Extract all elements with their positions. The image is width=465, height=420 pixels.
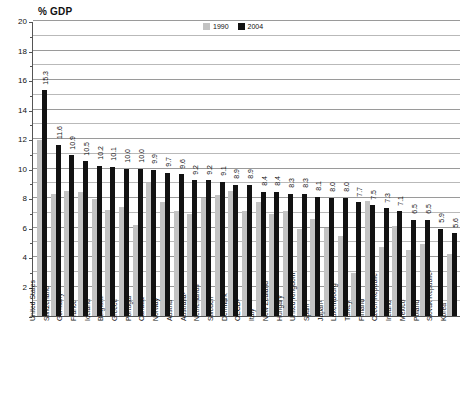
x-axis-category: Japan¹ (322, 319, 336, 417)
bar-group: 9.6 (172, 22, 186, 316)
bar-group: 8.4 (254, 22, 268, 316)
x-axis-category-label: Iceland (85, 299, 92, 321)
bar-group: 8.0 (322, 22, 336, 316)
x-axis-category: France (75, 319, 89, 417)
x-axis-category-label: Canada (140, 297, 147, 321)
bar-group: 8.9 (226, 22, 240, 316)
bar-group: 6.5 (404, 22, 418, 316)
x-axis-category: Iceland (89, 319, 103, 417)
x-axis-category: Finland (363, 319, 377, 417)
y-axis-minor-tick (30, 155, 32, 156)
y-axis-minor-tick (30, 243, 32, 244)
bar-2004 (315, 197, 320, 316)
x-axis-category: OECD² (240, 319, 254, 417)
bar-group: 10.0 (131, 22, 145, 316)
bar-group: 8.1 (308, 22, 322, 316)
x-axis-category: Canada (144, 319, 158, 417)
x-axis-category: Italy (253, 319, 267, 417)
bar-2004 (110, 167, 115, 316)
x-axis-category-label: OECD² (236, 299, 243, 321)
bar-group: 11.6 (49, 22, 63, 316)
y-axis-minor-tick (30, 184, 32, 185)
x-axis-category-label: Turkey (345, 300, 352, 321)
bar-group: 9.1 (213, 22, 227, 316)
x-axis-category-label: Italy (249, 309, 256, 321)
bar-group: 5.6 (445, 22, 459, 316)
x-axis-category: Australia¹ (185, 319, 199, 417)
y-axis-tick-label: 6 (5, 225, 27, 233)
bar-2004 (83, 161, 88, 316)
bar-value-label: 5.6 (452, 218, 459, 228)
bar-2004 (151, 170, 156, 316)
x-axis-category-label: Mexico (400, 299, 407, 321)
y-axis-tick (29, 170, 32, 171)
x-axis-category-label: Luxembourg (332, 283, 339, 321)
x-axis-category: Slovak Republic¹ (431, 319, 445, 417)
y-axis-tick (29, 258, 32, 259)
x-axis-category-label: Sweden (208, 296, 215, 321)
y-axis-minor-tick (30, 214, 32, 215)
bar-group: 8.4 (267, 22, 281, 316)
y-axis-tick (29, 229, 32, 230)
x-axis-category-label: Ireland (386, 300, 393, 321)
x-axis-category-label: Poland (414, 300, 421, 321)
bar-group: 10.2 (90, 22, 104, 316)
bar-group: 10.5 (76, 22, 90, 316)
x-axis-category: Greece (116, 319, 130, 417)
x-axis-category-label: United Kingdom (290, 273, 297, 321)
bar-2004 (138, 169, 143, 317)
x-axis-category-label: Australia¹ (181, 292, 188, 321)
x-axis-category: Norway (157, 319, 171, 417)
x-axis-category-label: Netherlands (194, 284, 201, 321)
x-axis-category-label: New Zealand (263, 281, 270, 321)
bar-2004 (69, 155, 74, 316)
y-axis-tick (29, 52, 32, 53)
bar-series-container: 15.311.610.910.510.210.110.010.09.99.79.… (33, 22, 460, 316)
x-axis-category: Austria (171, 319, 185, 417)
x-axis-category: Switzerland (48, 319, 62, 417)
x-axis-category: Poland (418, 319, 432, 417)
y-axis-tick-label: 8 (5, 195, 27, 203)
x-axis-category-label: Korea (441, 303, 448, 321)
x-axis-category: New Zealand (267, 319, 281, 417)
bar-2004 (302, 194, 307, 316)
bar-value-label-wrap: 5.6 (452, 213, 461, 231)
x-axis-category: Belgium¹ (103, 319, 117, 417)
bar-2004 (247, 185, 252, 316)
bar-group: 15.3 (35, 22, 49, 316)
chart-axis-title: % GDP (38, 6, 72, 17)
y-axis-minor-tick (30, 66, 32, 67)
bar-2004 (165, 173, 170, 316)
x-axis-category-label: Spain (304, 304, 311, 321)
x-axis-category: Luxembourg (335, 319, 349, 417)
y-axis-tick (29, 199, 32, 200)
x-axis-category: Netherlands (198, 319, 212, 417)
x-axis-category: Ireland (390, 319, 404, 417)
y-axis-minor-tick (30, 37, 32, 38)
x-axis-category-label: Hungary (277, 295, 284, 321)
bar-group: 9.7 (158, 22, 172, 316)
plot-area: 15.311.610.910.510.210.110.010.09.99.79.… (32, 22, 460, 317)
x-axis-category-label: Norway (153, 298, 160, 321)
y-axis-tick-label: 4 (5, 254, 27, 262)
bar-2004 (343, 198, 348, 316)
y-axis-minor-tick (30, 96, 32, 97)
x-axis-category: Czech Republic (377, 319, 391, 417)
x-axis-category: Portugal (130, 319, 144, 417)
bar-group: 7.1 (390, 22, 404, 316)
x-axis-category-label: United States (30, 280, 37, 321)
x-axis-category-label: Denmark (222, 293, 229, 321)
y-axis-minor-tick (30, 125, 32, 126)
bar-group: 10.0 (117, 22, 131, 316)
y-axis-tick-label: 10 (5, 166, 27, 174)
y-axis-tick-label: 14 (5, 107, 27, 115)
y-axis-tick-label: 2 (5, 284, 27, 292)
x-axis-category: Denmark (226, 319, 240, 417)
bar-group: 7.7 (349, 22, 363, 316)
x-axis-category-label: Czech Republic (373, 273, 380, 321)
y-axis-tick (29, 22, 32, 23)
x-axis-category-label: Portugal (126, 296, 133, 321)
y-axis-tick (29, 140, 32, 141)
x-axis-category-label: Belgium¹ (99, 294, 106, 321)
bar-2004 (233, 185, 238, 316)
